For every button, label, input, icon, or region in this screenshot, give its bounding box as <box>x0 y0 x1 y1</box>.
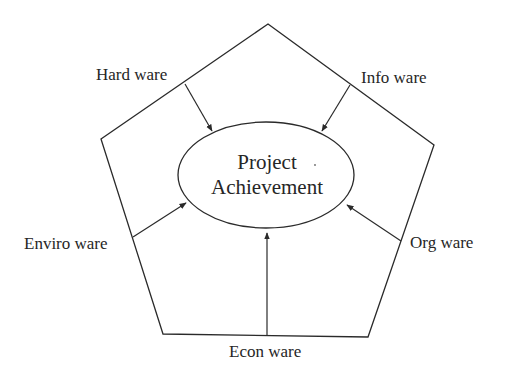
label-hardware: Hard ware <box>96 65 167 84</box>
label-infoware: Info ware <box>361 68 427 87</box>
arrow-envirowware <box>133 203 186 237</box>
project-achievement-diagram: Project Achievement Hard ware Info ware … <box>0 0 513 375</box>
label-orgware: Org ware <box>410 233 473 252</box>
center-label-line2: Achievement <box>211 175 323 199</box>
label-envirowware: Enviro ware <box>24 234 108 253</box>
arrow-orgware <box>347 205 401 241</box>
arrow-infoware <box>322 85 350 131</box>
arrow-hardware <box>185 84 212 131</box>
center-label-line1: Project <box>237 150 297 174</box>
label-econware: Econ ware <box>229 342 301 361</box>
scan-speck <box>314 164 316 166</box>
